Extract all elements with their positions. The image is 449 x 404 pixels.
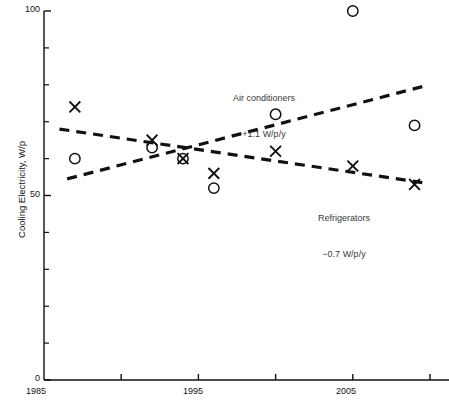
- data-point-circle: [70, 153, 80, 163]
- annotation-ac-line2: +1.1 W/p/y: [212, 128, 316, 140]
- annotation-air-conditioners: Air conditioners +1.1 W/p/y: [212, 68, 316, 164]
- annotation-ref-line1: Refrigerators: [292, 212, 396, 224]
- x-tick-label-1995: 1995: [183, 386, 203, 396]
- x-tick-label-1985: 1985: [26, 386, 46, 396]
- annotation-ref-line2: −0.7 W/p/y: [292, 248, 396, 260]
- annotation-ac-line1: Air conditioners: [212, 92, 316, 104]
- y-axis-title: Cooling Electricity, W/p: [16, 115, 27, 265]
- data-point-circle: [409, 120, 419, 130]
- y-tick-label-100: 100: [25, 4, 40, 14]
- annotation-refrigerators: Refrigerators −0.7 W/p/y: [292, 188, 396, 284]
- y-tick-label-0: 0: [35, 373, 40, 383]
- chart-figure: 100 50 0 1985 1995 2005 Cooling Electric…: [0, 0, 449, 404]
- data-point-circle: [348, 6, 358, 16]
- y-tick-label-50: 50: [30, 189, 40, 199]
- x-tick-label-2005: 2005: [336, 386, 356, 396]
- data-point-circle: [209, 183, 219, 193]
- y-axis-ticks: [44, 11, 51, 380]
- x-axis-ticks: [121, 374, 430, 380]
